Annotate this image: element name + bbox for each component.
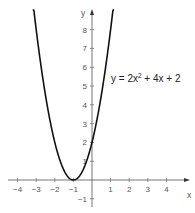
y-tick-label: 5 bbox=[83, 82, 88, 91]
x-tick-label: −2 bbox=[50, 185, 60, 194]
y-axis-label: y bbox=[81, 8, 86, 18]
x-axis-label: x bbox=[187, 190, 192, 200]
equation-label: y = 2x2 + 4x + 2 bbox=[111, 72, 181, 84]
parabola-curve bbox=[33, 10, 114, 180]
y-tick-label: 6 bbox=[83, 63, 88, 72]
parabola-chart: x y −4−3−2−11234 −112345678 y = 2x2 + 4x… bbox=[0, 0, 195, 213]
x-axis-arrow-icon bbox=[184, 178, 190, 182]
y-tick-label: −1 bbox=[78, 195, 88, 204]
y-tick-label: 8 bbox=[83, 26, 88, 35]
plot-area: x y −4−3−2−11234 −112345678 y = 2x2 + 4x… bbox=[0, 0, 195, 213]
x-tick-label: −3 bbox=[32, 185, 42, 194]
x-tick-label: 2 bbox=[127, 185, 132, 194]
y-tick-label: 4 bbox=[83, 101, 88, 110]
y-tick-label: 2 bbox=[83, 138, 88, 147]
x-tick-label: −1 bbox=[69, 185, 79, 194]
x-tick-label: 3 bbox=[146, 185, 151, 194]
x-tick-label: 1 bbox=[108, 185, 113, 194]
y-tick-label: 7 bbox=[83, 44, 88, 53]
x-tick-label: −4 bbox=[13, 185, 23, 194]
y-tick-label: 3 bbox=[83, 120, 88, 129]
y-axis-arrow-icon bbox=[90, 9, 94, 15]
x-tick-label: 4 bbox=[164, 185, 169, 194]
